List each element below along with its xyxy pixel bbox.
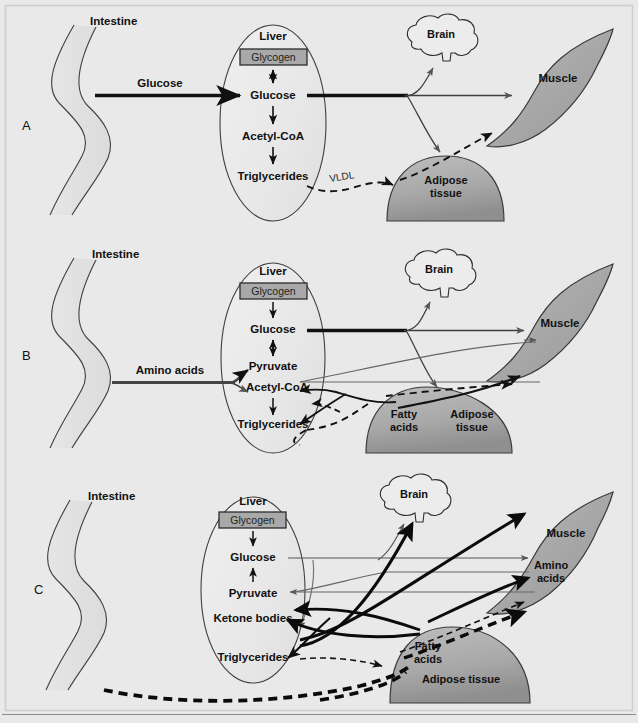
metabolism-diagram: Intestine A Liver Glycogen Glucose Acety… xyxy=(0,0,638,723)
liver-pyruvate-b: Pyruvate xyxy=(249,360,298,372)
muscle-label-b: Muscle xyxy=(541,317,580,329)
figure-canvas: Intestine A Liver Glycogen Glucose Acety… xyxy=(0,0,638,723)
panel-letter-b: B xyxy=(22,348,31,363)
muscle-label-c: Muscle xyxy=(547,527,586,539)
fatty-acids-label-line1-b: Fatty xyxy=(391,408,418,420)
adipose-label-line2-b: tissue xyxy=(456,421,488,433)
liver-acetyl-coa-a: Acetyl-CoA xyxy=(242,130,304,142)
glycogen-label-c: Glycogen xyxy=(230,514,275,526)
liver-label-b: Liver xyxy=(259,265,287,277)
fatty-acids-label-line2-c: acids xyxy=(414,653,442,665)
brain-label-b: Brain xyxy=(425,263,453,275)
muscle-label-a: Muscle xyxy=(539,72,578,84)
intestine-label-c: Intestine xyxy=(88,490,135,502)
intestine-label-a: Intestine xyxy=(90,15,137,27)
fatty-acids-label-line2-b: acids xyxy=(390,421,418,433)
glycogen-label-b: Glycogen xyxy=(251,285,296,297)
liver-acetyl-coa-b: Acetyl-CoA xyxy=(246,381,308,393)
liver-triglycerides-a: Triglycerides xyxy=(238,170,309,182)
intestine-label-b: Intestine xyxy=(92,248,139,260)
flux-label-glucose-a: Glucose xyxy=(137,77,182,89)
adipose-label-line1-b: Adipose xyxy=(450,408,493,420)
liver-triglycerides-c: Triglycerides xyxy=(218,651,289,663)
flux-label-amino-acids-b: Amino acids xyxy=(136,364,204,376)
liver-a: Liver Glycogen Glucose Acetyl-CoA Trigly… xyxy=(220,25,326,221)
liver-glucose-a: Glucose xyxy=(250,89,295,101)
liver-b: Liver Glycogen Glucose Pyruvate Acetyl-C… xyxy=(221,263,325,453)
brain-label-a: Brain xyxy=(427,28,455,40)
panel-letter-a: A xyxy=(22,118,31,133)
liver-glucose-b: Glucose xyxy=(250,323,295,335)
muscle-amino-label-line2-c: acids xyxy=(537,572,565,584)
liver-pyruvate-c: Pyruvate xyxy=(229,587,278,599)
panel-letter-c: C xyxy=(34,582,43,597)
liver-label-a: Liver xyxy=(259,30,287,42)
adipose-label-line1-a: Adipose xyxy=(424,174,467,186)
adipose-label-line2-a: tissue xyxy=(430,187,462,199)
liver-triglycerides-b: Triglycerides xyxy=(238,418,309,430)
liver-glucose-c: Glucose xyxy=(230,551,275,563)
adipose-label-c: Adipose tissue xyxy=(422,673,500,685)
liver-label-c: Liver xyxy=(239,495,267,507)
liver-c: Liver Glycogen Glucose Pyruvate Ketone b… xyxy=(201,495,305,683)
muscle-amino-label-line1-c: Amino xyxy=(534,559,569,571)
brain-label-c: Brain xyxy=(400,488,428,500)
glycogen-label-a: Glycogen xyxy=(251,51,296,63)
liver-ketone-bodies-c: Ketone bodies xyxy=(213,612,292,624)
